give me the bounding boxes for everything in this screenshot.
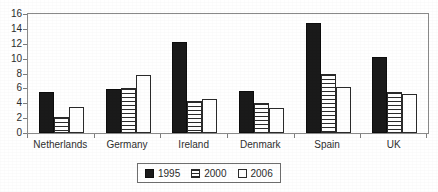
x-category-label-netherlands: Netherlands	[33, 139, 87, 151]
y-tick-label: 12	[0, 39, 22, 49]
x-tick-mark	[27, 134, 28, 138]
legend-entry-2006: 2006	[238, 168, 273, 179]
legend-swatch-1995	[145, 169, 154, 178]
bar-netherlands-2006	[69, 107, 84, 133]
plot-area	[27, 13, 429, 134]
bar-denmark-1995	[239, 91, 254, 133]
legend-label-2000: 2000	[204, 168, 226, 179]
x-tick-mark	[294, 134, 295, 138]
bar-germany-2006	[136, 75, 151, 133]
x-tick-mark	[227, 134, 228, 138]
bar-uk-2006	[402, 94, 417, 133]
y-tick-label: 10	[0, 54, 22, 64]
legend-swatch-2006	[238, 169, 247, 178]
chart-legend: 199520002006	[137, 163, 281, 183]
x-category-label-germany: Germany	[106, 139, 147, 151]
bar-netherlands-2000	[54, 117, 69, 133]
legend-swatch-2000	[191, 169, 200, 178]
x-tick-mark	[426, 134, 427, 138]
y-tick-label: 2	[0, 113, 22, 123]
bar-spain-1995	[306, 23, 321, 133]
legend-label-1995: 1995	[158, 168, 180, 179]
y-tick-label: 0	[0, 128, 22, 138]
y-tick-label: 4	[0, 98, 22, 108]
bar-netherlands-1995	[39, 92, 54, 133]
y-tick-label: 6	[0, 83, 22, 93]
bar-spain-2006	[336, 87, 351, 133]
bar-ireland-2000	[187, 101, 202, 133]
legend-entry-1995: 1995	[145, 168, 180, 179]
bar-uk-1995	[372, 57, 387, 133]
bar-ireland-1995	[172, 42, 187, 133]
x-tick-mark	[360, 134, 361, 138]
x-tick-mark	[160, 134, 161, 138]
bar-denmark-2006	[269, 108, 284, 133]
y-tick-label: 14	[0, 24, 22, 34]
y-axis: 1614121086420	[0, 6, 22, 141]
bar-ireland-2006	[202, 99, 217, 133]
legend-entry-2000: 2000	[191, 168, 226, 179]
bar-uk-2000	[387, 92, 402, 133]
x-category-label-denmark: Denmark	[240, 139, 281, 151]
bar-germany-2000	[121, 88, 136, 133]
x-category-label-uk: UK	[387, 139, 401, 151]
y-tick-label: 16	[0, 9, 22, 19]
x-axis: NetherlandsGermanyIrelandDenmarkSpainUK	[27, 139, 429, 155]
legend-label-2006: 2006	[251, 168, 273, 179]
bar-spain-2000	[321, 74, 336, 134]
bars-layer	[28, 14, 428, 133]
y-tick-label: 8	[0, 69, 22, 79]
bar-germany-1995	[106, 89, 121, 133]
grouped-bar-chart: 1614121086420 NetherlandsGermanyIrelandD…	[0, 0, 438, 192]
x-category-label-spain: Spain	[314, 139, 340, 151]
bar-denmark-2000	[254, 103, 269, 133]
x-tick-mark	[94, 134, 95, 138]
x-category-label-ireland: Ireland	[178, 139, 209, 151]
